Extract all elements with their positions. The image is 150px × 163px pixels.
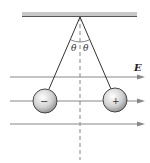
left-string [49,17,80,89]
arrowhead-3 [137,122,145,127]
theta-left-label: θ [71,43,77,53]
charged-pendulum-diagram: θ θ E − + [0,0,150,163]
negative-sign: − [40,96,48,107]
theta-right-label: θ [83,43,89,53]
arrowhead-1 [137,75,145,80]
arrowhead-2 [137,99,145,104]
ceiling [22,12,137,16]
field-label-E: E [133,62,142,73]
right-string [80,17,111,89]
positive-sign: + [112,96,120,106]
